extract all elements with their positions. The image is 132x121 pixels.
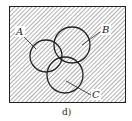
label-c: C <box>92 89 100 100</box>
caption: d) <box>62 107 71 117</box>
label-a: A <box>15 26 23 37</box>
label-b: B <box>101 24 109 35</box>
venn-diagram: A B C d) <box>0 0 132 121</box>
universe-rect <box>10 7 126 103</box>
